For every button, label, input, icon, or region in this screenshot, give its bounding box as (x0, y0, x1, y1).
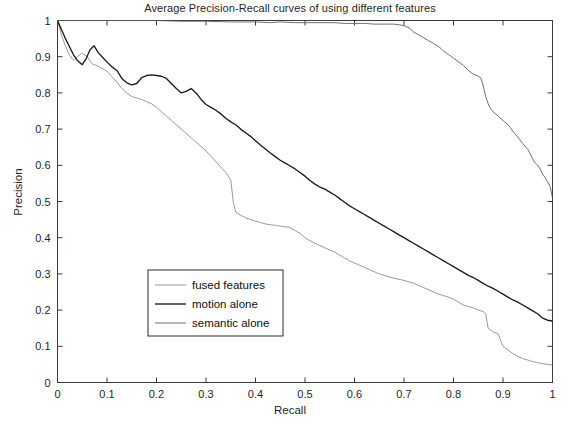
y-tick-label-1: 0.1 (35, 340, 50, 352)
series-line-0 (58, 21, 553, 366)
x-tick-label-10: 1 (549, 388, 555, 400)
x-tick-label-9: 0.9 (495, 388, 510, 400)
y-tick-label-4: 0.4 (35, 232, 50, 244)
axes-frame (58, 21, 553, 383)
y-tick-label-9: 0.9 (35, 51, 50, 63)
x-tick-label-3: 0.3 (198, 388, 213, 400)
chart-legend: fused featuresmotion alonesemantic alone (148, 270, 283, 336)
series-line-1 (58, 21, 553, 321)
y-tick-label-2: 0.2 (35, 304, 50, 316)
y-tick-label-6: 0.6 (35, 159, 50, 171)
x-tick-label-5: 0.5 (297, 388, 312, 400)
y-tick-label-3: 0.3 (35, 268, 50, 280)
x-tick-label-1: 0.1 (99, 388, 114, 400)
x-axis-tick-labels: 00.10.20.30.40.50.60.70.80.91 (54, 388, 555, 400)
y-tick-label-7: 0.7 (35, 123, 50, 135)
axes-box (58, 21, 553, 383)
x-tick-label-4: 0.4 (248, 388, 263, 400)
x-tick-label-0: 0 (54, 388, 60, 400)
y-tick-label-5: 0.5 (35, 196, 50, 208)
y-axis-tick-labels: 00.10.20.30.40.50.60.70.80.91 (35, 15, 50, 389)
data-series-layer (58, 21, 553, 366)
legend-label-1: motion alone (192, 298, 258, 310)
plot-canvas: 00.10.20.30.40.50.60.70.80.91 00.10.20.3… (0, 0, 580, 426)
x-tick-label-6: 0.6 (347, 388, 362, 400)
legend-label-2: semantic alone (192, 317, 269, 329)
series-line-2 (58, 21, 553, 198)
y-tick-label-0: 0 (44, 377, 50, 389)
x-axis-ticks (58, 21, 553, 383)
x-tick-label-2: 0.2 (149, 388, 164, 400)
precision-recall-figure: Average Precision-Recall curves of using… (0, 0, 580, 426)
y-tick-label-10: 1 (44, 15, 50, 27)
x-tick-label-7: 0.7 (396, 388, 411, 400)
legend-label-0: fused features (192, 279, 265, 291)
y-tick-label-8: 0.8 (35, 87, 50, 99)
x-tick-label-8: 0.8 (446, 388, 461, 400)
y-axis-ticks (58, 21, 553, 383)
